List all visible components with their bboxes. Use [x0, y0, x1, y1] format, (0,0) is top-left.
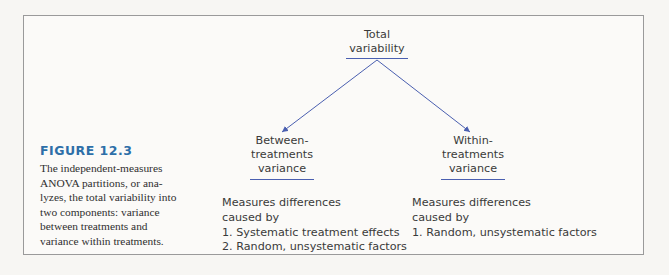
description-line: caused by	[222, 211, 407, 226]
node-underline	[346, 58, 408, 59]
description-line: Measures differences	[412, 196, 597, 211]
description-line: 1. Random, unsystematic factors	[412, 226, 597, 241]
between-description: Measures differences caused by 1. System…	[222, 196, 407, 255]
node-total-variability: Total variability	[346, 28, 408, 59]
arrow-to-between	[282, 60, 377, 132]
caption-line: between treatments and	[40, 219, 190, 234]
figure-caption-text: The independent-measures ANOVA partition…	[40, 161, 190, 249]
node-line: treatments	[250, 148, 314, 162]
figure-label: FIGURE 12.3	[40, 143, 190, 158]
caption-line: The independent-measures	[40, 161, 190, 176]
node-line: Total	[346, 28, 408, 42]
node-line: Between-	[250, 134, 314, 148]
arrow-to-within	[377, 60, 470, 132]
caption-line: two components: variance	[40, 205, 190, 220]
caption-line: ANOVA partitions, or ana-	[40, 176, 190, 191]
node-line: Within-	[441, 134, 505, 148]
caption-line: variance within treatments.	[40, 234, 190, 249]
caption-line: lyzes, the total variability into	[40, 190, 190, 205]
node-line: variance	[441, 162, 505, 176]
within-description: Measures differences caused by 1. Random…	[412, 196, 597, 240]
node-line: treatments	[441, 148, 505, 162]
node-between-treatments-variance: Between- treatments variance	[250, 134, 314, 180]
description-line: 2. Random, unsystematic factors	[222, 240, 407, 255]
node-underline	[441, 179, 505, 180]
description-line: Measures differences	[222, 196, 407, 211]
description-line: 1. Systematic treatment effects	[222, 226, 407, 241]
node-within-treatments-variance: Within- treatments variance	[441, 134, 505, 180]
node-line: variance	[250, 162, 314, 176]
node-underline	[250, 179, 314, 180]
node-line: variability	[346, 42, 408, 56]
figure-caption: FIGURE 12.3 The independent-measures ANO…	[40, 143, 190, 249]
description-line: caused by	[412, 211, 597, 226]
